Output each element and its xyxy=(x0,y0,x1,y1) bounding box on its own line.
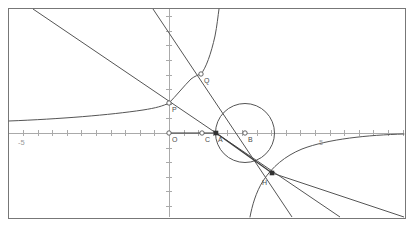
point-label-C: C xyxy=(205,136,210,143)
axis-tick-label-neg5: -5 xyxy=(18,139,25,147)
frame-rect xyxy=(9,9,406,219)
point-marker-C[interactable] xyxy=(200,131,204,135)
point-marker-Q[interactable] xyxy=(199,72,203,76)
point-label-Q: Q xyxy=(204,77,209,84)
point-marker-P[interactable] xyxy=(167,101,171,105)
point-label-O: O xyxy=(172,136,177,143)
point-marker-B[interactable] xyxy=(243,131,247,135)
point-label-H: H xyxy=(262,179,267,186)
point-label-B: B xyxy=(248,136,253,143)
point-label-A: A xyxy=(218,136,223,143)
axis-tick-label-5: 5 xyxy=(319,139,323,147)
geometry-svg xyxy=(0,0,413,232)
point-label-P: P xyxy=(172,106,177,113)
figure-frame xyxy=(9,9,406,219)
point-marker-O[interactable] xyxy=(167,131,171,135)
figure-canvas: OCABPQH -55 xyxy=(0,0,413,232)
point-marker-A[interactable] xyxy=(214,131,218,135)
point-marker-H[interactable] xyxy=(270,171,274,175)
